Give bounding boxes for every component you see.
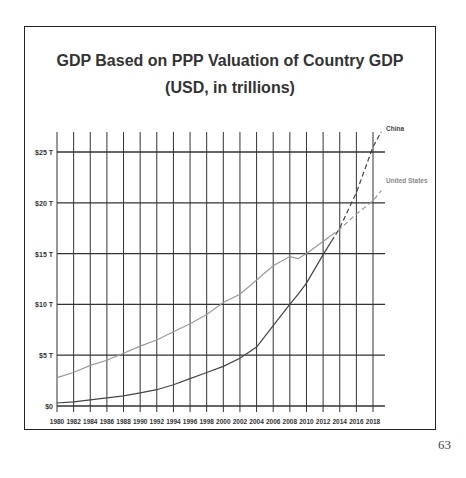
x-tick-label: 2002 — [233, 418, 248, 425]
x-tick-label: 2012 — [316, 418, 331, 425]
y-tick-label: $25 T — [35, 149, 54, 157]
x-tick-label: 2000 — [216, 418, 231, 425]
legend-label-united-states: United States — [386, 177, 428, 184]
legend-label-china: China — [386, 125, 404, 132]
x-tick-label: 2018 — [366, 418, 381, 425]
y-tick-label: $0 — [45, 403, 53, 411]
x-tick-label: 1982 — [66, 418, 81, 425]
y-tick-label: $10 T — [35, 301, 54, 309]
x-tick-label: 1996 — [183, 418, 198, 425]
x-tick-label: 1990 — [133, 418, 148, 425]
x-tick-label: 1984 — [83, 418, 98, 425]
x-tick-label: 1980 — [50, 418, 65, 425]
x-tick-label: 2006 — [266, 418, 281, 425]
x-tick-label: 1992 — [150, 418, 165, 425]
x-tick-label: 2008 — [283, 418, 298, 425]
x-tick-label: 1998 — [199, 418, 214, 425]
y-tick-label: $20 T — [35, 200, 54, 208]
y-tick-label: $15 T — [35, 251, 54, 259]
x-tick-label: 2004 — [249, 418, 264, 425]
x-tick-label: 1986 — [100, 418, 115, 425]
x-tick-label: 1988 — [116, 418, 131, 425]
line-chart: $0$5 T$10 T$15 T$20 T$25 T19801982198419… — [0, 0, 466, 478]
y-tick-label: $5 T — [39, 352, 54, 360]
x-tick-label: 2010 — [299, 418, 314, 425]
x-tick-label: 1994 — [166, 418, 181, 425]
page-number: 63 — [438, 437, 451, 453]
x-tick-label: 2014 — [333, 418, 348, 425]
x-tick-label: 2016 — [349, 418, 364, 425]
